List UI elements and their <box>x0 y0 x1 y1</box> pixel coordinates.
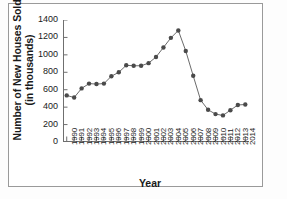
x-axis-title: Year <box>60 177 240 189</box>
x-axis-tick-labels: 1990199119921993199419951996199719981999… <box>0 0 287 199</box>
x-axis-tick-label: 2014 <box>248 128 257 145</box>
chart-figure: Number of New Houses Sold (in thousands)… <box>0 0 287 199</box>
